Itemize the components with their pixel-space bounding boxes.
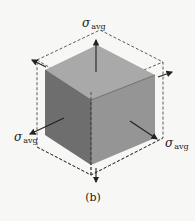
label-right-sigma: σavg bbox=[165, 136, 189, 151]
label-top-sigma: σavg bbox=[82, 16, 106, 31]
arrow-back-right-icon bbox=[158, 72, 172, 77]
stress-cube-diagram: σavg σavg σavg (b) bbox=[0, 0, 195, 221]
figure-caption: (b) bbox=[85, 191, 101, 204]
